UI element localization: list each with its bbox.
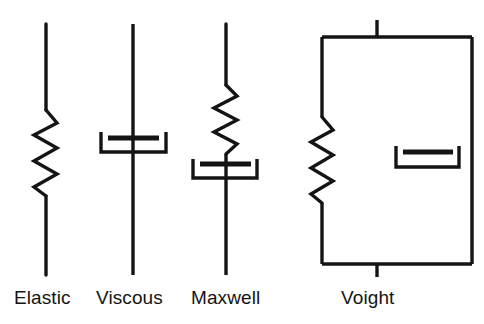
maxwell-element [193,24,257,275]
elastic-element [34,24,57,275]
label-elastic: Elastic [14,288,71,307]
figure-root: Elastic Viscous Maxwell Voight [0,0,484,324]
label-viscous: Viscous [96,288,163,307]
voight-spring-coil [311,117,333,203]
elastic-spring-coil [34,110,57,196]
maxwell-spring-coil [214,85,237,154]
viscoelastic-models-diagram [0,0,484,324]
voight-element [311,20,472,277]
label-voight: Voight [341,288,394,307]
voight-dashpot-cylinder [396,146,459,167]
label-maxwell: Maxwell [191,288,260,307]
viscous-element [101,24,166,275]
